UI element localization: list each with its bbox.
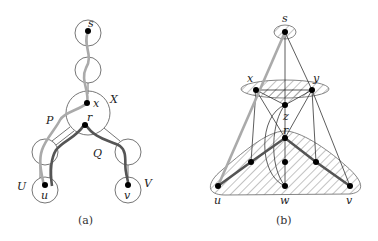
path-P xyxy=(40,32,89,186)
bag-right-mid xyxy=(115,139,141,165)
label-x: x xyxy=(93,97,100,110)
panel-a: s x r X P Q U V u v (a) xyxy=(17,17,153,227)
label-r: r xyxy=(87,111,93,124)
node-right-mid xyxy=(313,159,319,165)
node-y-b xyxy=(309,87,315,93)
label-Q: Q xyxy=(93,147,102,160)
label-s: s xyxy=(88,17,94,30)
caption-a: (a) xyxy=(78,214,93,227)
node-left-mid xyxy=(248,159,254,165)
label-U: U xyxy=(17,180,27,193)
label-P: P xyxy=(45,114,54,127)
label-u-b: u xyxy=(214,194,221,207)
label-x-b: x xyxy=(247,72,254,85)
node-u-b xyxy=(215,183,221,189)
panel-b: s x y z r u w v (b) xyxy=(210,12,360,227)
node-v xyxy=(125,182,131,188)
caption-b: (b) xyxy=(276,214,292,227)
node-u xyxy=(42,182,48,188)
label-r-b: r xyxy=(283,124,289,137)
node-x-b xyxy=(253,87,259,93)
node-z-b xyxy=(282,102,288,108)
figure: s x r X P Q U V u v (a) xyxy=(0,0,378,241)
label-y-b: y xyxy=(312,72,320,85)
path-Q xyxy=(51,125,128,186)
label-X: X xyxy=(109,93,119,106)
node-center-mid xyxy=(282,159,288,165)
label-w-b: w xyxy=(280,194,290,207)
label-s-b: s xyxy=(282,12,288,25)
label-u: u xyxy=(41,189,48,202)
label-v-b: v xyxy=(346,194,353,207)
node-x xyxy=(84,100,90,106)
label-V: V xyxy=(144,177,153,190)
label-v: v xyxy=(124,189,131,202)
node-w-b xyxy=(282,183,288,189)
label-z-b: z xyxy=(282,110,289,123)
node-s-b xyxy=(282,29,288,35)
node-v-b xyxy=(347,183,353,189)
